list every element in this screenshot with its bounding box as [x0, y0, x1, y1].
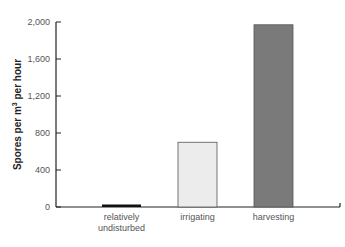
y-tick-label: 400	[35, 165, 50, 175]
bar-irrigating	[178, 142, 217, 207]
y-tick-label: 1,200	[27, 91, 50, 101]
x-category-label: relatively	[104, 212, 140, 222]
y-tick-label: 800	[35, 128, 50, 138]
y-tick-label: 2,000	[27, 17, 50, 27]
bar-relatively-undisturbed	[102, 205, 141, 208]
x-category-label: undisturbed	[98, 223, 145, 233]
bar-chart: 04008001,2001,6002,000Spores per m3 per …	[0, 0, 345, 247]
y-axis-label: Spores per m3 per hour	[11, 59, 23, 170]
x-category-label: harvesting	[253, 212, 295, 222]
x-category-label: irrigating	[180, 212, 215, 222]
bar-harvesting	[254, 25, 293, 207]
y-tick-label: 0	[45, 202, 50, 212]
y-tick-label: 1,600	[27, 54, 50, 64]
